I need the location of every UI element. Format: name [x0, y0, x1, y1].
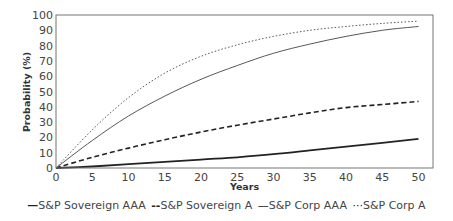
chart: 0102030405060708090100 05101520253035404… — [0, 0, 453, 221]
legend-label: S&P Corp AAA — [269, 199, 347, 212]
y-tick-label: 30 — [39, 116, 53, 129]
y-tick-label: 20 — [39, 131, 53, 144]
legend-label: S&P Corp A — [363, 199, 426, 212]
legend-label: S&P Sovereign AAA — [38, 199, 145, 212]
x-tick-label: 35 — [303, 171, 317, 184]
y-axis-title: Probability (%) — [21, 52, 32, 132]
x-tick-label: 30 — [267, 171, 281, 184]
y-axis-ticks: 0102030405060708090100 — [32, 9, 53, 175]
y-tick-label: 90 — [39, 24, 53, 37]
plot-frame — [56, 15, 433, 168]
x-tick-label: 50 — [412, 171, 426, 184]
y-tick-label: 80 — [39, 40, 53, 53]
series-layer — [56, 21, 419, 168]
legend-solid-thick-line-icon: — — [27, 199, 38, 212]
x-tick-label: 5 — [89, 171, 96, 184]
legend: —S&P Sovereign AAA --S&P Sovereign A —S&… — [0, 199, 453, 212]
y-tick-label: 10 — [39, 147, 53, 160]
x-tick-label: 15 — [158, 171, 172, 184]
series-line-s-p-corp-a — [56, 21, 419, 168]
legend-solid-thin-line-icon: — — [258, 199, 269, 212]
x-tick-label: 10 — [122, 171, 136, 184]
series-line-s-p-corp-aaa — [56, 27, 419, 169]
y-tick-label: 50 — [39, 86, 53, 99]
legend-item-sovereign-aaa: —S&P Sovereign AAA — [27, 199, 145, 212]
x-axis-title: Years — [229, 181, 260, 192]
legend-label: S&P Sovereign A — [160, 199, 252, 212]
x-tick-label: 40 — [339, 171, 353, 184]
y-tick-label: 60 — [39, 70, 53, 83]
y-tick-label: 40 — [39, 101, 53, 114]
legend-dotted-line-icon: ··· — [352, 199, 363, 212]
x-tick-label: 20 — [194, 171, 208, 184]
x-tick-label: 0 — [53, 171, 60, 184]
y-tick-label: 100 — [32, 9, 53, 22]
legend-item-corp-aaa: —S&P Corp AAA — [258, 199, 347, 212]
y-tick-label: 70 — [39, 55, 53, 68]
series-line-s-p-sovereign-aaa — [56, 139, 419, 168]
line-chart: 0102030405060708090100 05101520253035404… — [0, 0, 453, 221]
legend-item-corp-a: ···S&P Corp A — [352, 199, 425, 212]
x-tick-label: 45 — [375, 171, 389, 184]
legend-item-sovereign-a: --S&P Sovereign A — [151, 199, 252, 212]
